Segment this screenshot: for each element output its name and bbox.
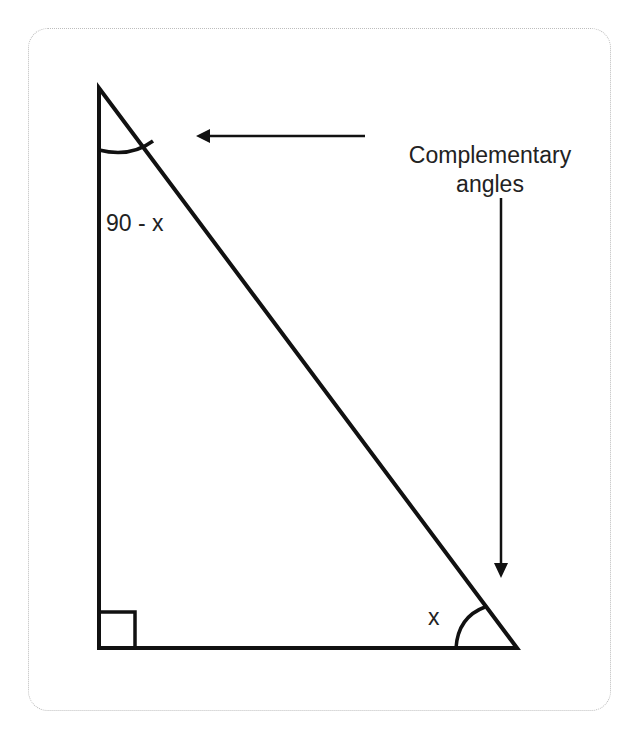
- right-triangle-diagram: [0, 0, 639, 738]
- bottom-right-angle-arc: [456, 607, 485, 648]
- complementary-angles-label: Complementary angles: [370, 141, 610, 199]
- annotation-line-2: angles: [370, 170, 610, 199]
- right-angle-marker: [99, 612, 135, 648]
- annotation-line-1: Complementary: [370, 141, 610, 170]
- bottom-right-angle-label: x: [428, 604, 440, 631]
- top-angle-label: 90 - x: [106, 210, 164, 237]
